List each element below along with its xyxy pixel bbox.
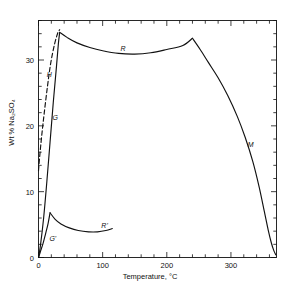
x-tick-label: 100 <box>96 261 109 270</box>
curve-label-G-prime: G' <box>49 235 56 242</box>
curve-G <box>39 32 60 257</box>
y-tick-label: 0 <box>8 253 34 262</box>
y-tick-label: 10 <box>8 187 34 196</box>
curve-R <box>60 32 193 54</box>
y-tick-label: 20 <box>8 121 34 130</box>
curve-label-M: M <box>248 141 254 148</box>
data-curves <box>39 30 276 258</box>
x-tick-label: 0 <box>36 261 40 270</box>
x-axis-title: Temperature, °C <box>0 272 300 281</box>
x-tick-label: 300 <box>225 261 238 270</box>
curve-label-R: R <box>121 45 126 52</box>
curve-M <box>192 38 275 255</box>
curve-label-H: H <box>47 71 52 78</box>
chart-plot-area <box>0 0 300 289</box>
figure-container: Wt % Na₂SO₄ Temperature, °C 0100200300 0… <box>0 0 300 289</box>
axes-frame <box>39 21 277 258</box>
curve-label-G: G <box>53 114 58 121</box>
axis-ticks <box>39 21 277 258</box>
curve-label-R-prime: R' <box>101 222 107 229</box>
y-tick-label: 30 <box>8 56 34 65</box>
x-tick-label: 200 <box>161 261 174 270</box>
curve-G-prime <box>39 213 51 258</box>
